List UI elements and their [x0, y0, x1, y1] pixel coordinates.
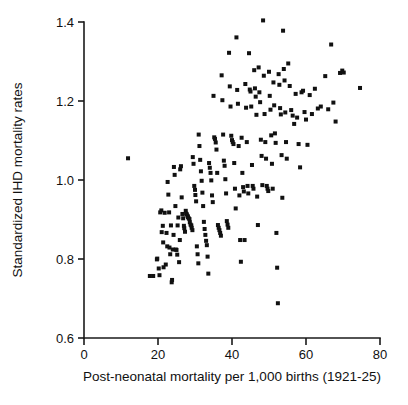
data-point — [204, 239, 208, 243]
data-point — [214, 148, 218, 152]
data-point — [249, 90, 253, 94]
data-point — [237, 144, 241, 148]
data-point — [271, 80, 275, 84]
data-point — [303, 110, 307, 114]
data-point — [237, 193, 241, 197]
data-point — [295, 116, 299, 120]
data-point — [297, 142, 301, 146]
data-point — [203, 233, 207, 237]
data-point — [229, 105, 233, 109]
data-point — [222, 159, 226, 163]
data-point — [285, 157, 289, 161]
data-point — [226, 226, 230, 230]
data-point — [157, 266, 161, 270]
data-point — [231, 142, 235, 146]
data-point — [275, 266, 279, 270]
data-point — [192, 162, 196, 166]
data-point — [292, 122, 296, 126]
y-tick-label: 0.6 — [56, 331, 74, 346]
data-point — [173, 173, 177, 177]
data-point — [269, 133, 273, 137]
data-point — [201, 204, 205, 208]
data-point — [126, 156, 130, 160]
data-point — [241, 185, 245, 189]
data-point — [301, 89, 305, 93]
data-point — [206, 272, 210, 276]
data-point — [175, 253, 179, 257]
data-point — [235, 88, 239, 92]
y-axis: 0.60.81.01.21.4 — [56, 15, 84, 346]
data-point — [274, 231, 278, 235]
x-tick-label: 0 — [80, 347, 87, 362]
y-tick-label: 0.8 — [56, 252, 74, 267]
data-point — [205, 243, 209, 247]
data-point — [214, 140, 218, 144]
data-point — [280, 153, 284, 157]
data-point — [266, 189, 270, 193]
data-point — [329, 43, 333, 47]
plot-canvas: 0.60.81.01.21.4 020406080 Post-neonatal … — [0, 0, 408, 405]
data-point — [276, 301, 280, 305]
data-point — [192, 184, 196, 188]
x-tick-label: 60 — [299, 347, 313, 362]
data-point — [194, 199, 198, 203]
data-point — [243, 82, 247, 86]
data-point — [165, 231, 169, 235]
data-point — [220, 98, 224, 102]
data-point — [291, 114, 295, 118]
data-point — [257, 90, 261, 94]
data-point — [240, 171, 244, 175]
data-point — [286, 61, 290, 65]
data-point — [283, 78, 287, 82]
data-point — [326, 107, 330, 111]
data-point — [277, 83, 281, 87]
data-point — [278, 106, 282, 110]
data-point — [219, 234, 223, 238]
data-point — [358, 86, 362, 90]
data-point — [244, 106, 248, 110]
data-point — [198, 158, 202, 162]
data-point — [176, 216, 180, 220]
data-point — [319, 105, 323, 109]
data-point — [228, 84, 232, 88]
data-point — [260, 154, 264, 158]
data-point — [308, 93, 312, 97]
data-point — [211, 200, 215, 204]
data-point — [280, 196, 284, 200]
data-point — [243, 238, 247, 242]
data-point — [200, 179, 204, 183]
data-point — [250, 163, 254, 167]
data-point — [164, 263, 168, 267]
data-point — [247, 51, 251, 55]
data-point — [177, 260, 181, 264]
data-point — [193, 188, 197, 192]
data-point — [170, 278, 174, 282]
data-point — [289, 108, 293, 112]
data-point — [253, 86, 257, 90]
data-point — [163, 211, 167, 215]
data-point — [207, 161, 211, 165]
data-point — [227, 51, 231, 55]
data-point — [181, 216, 185, 220]
data-point — [262, 74, 266, 78]
data-point — [256, 223, 260, 227]
data-point — [160, 230, 164, 234]
data-point — [210, 193, 214, 197]
data-point — [267, 70, 271, 74]
x-tick-label: 40 — [225, 347, 239, 362]
data-point — [252, 68, 256, 72]
data-point — [342, 71, 346, 75]
data-point — [246, 191, 250, 195]
data-point — [334, 120, 338, 124]
data-point — [259, 138, 263, 142]
data-point — [273, 131, 277, 135]
data-point — [249, 105, 253, 109]
data-point — [310, 112, 314, 116]
data-point — [274, 141, 278, 145]
data-point — [180, 195, 184, 199]
data-point — [172, 233, 176, 237]
data-point — [242, 189, 246, 193]
data-point — [161, 240, 165, 244]
data-point — [206, 255, 210, 259]
data-point — [224, 191, 228, 195]
